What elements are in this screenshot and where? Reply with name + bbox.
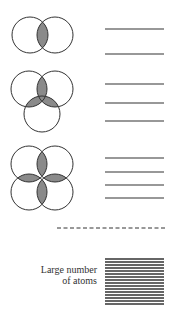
atom-group-two-atoms [12,17,73,53]
atom-rows [11,17,73,210]
energy-band [105,259,164,304]
band-label-line1: Large number [41,264,97,275]
atom-group-three-atoms [11,71,73,132]
band-label: Large number of atoms [41,264,97,286]
energy-levels [105,29,164,198]
level-group-four-atoms [105,158,164,198]
atom-group-four-atoms [11,146,73,210]
level-group-three-atoms [105,84,164,121]
level-group-two-atoms [105,29,164,54]
band-label-line2: of atoms [41,275,97,286]
